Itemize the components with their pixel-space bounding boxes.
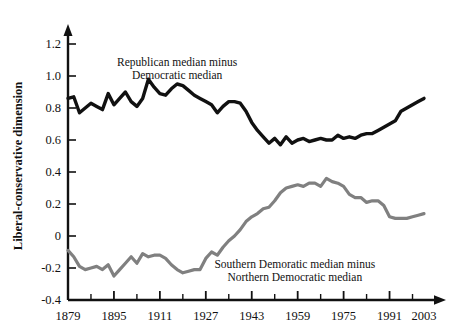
annotation-line-2: Democratic median bbox=[132, 69, 223, 81]
y-tick-label: -0.2 bbox=[41, 261, 61, 275]
y-axis-arrowhead bbox=[64, 24, 73, 36]
x-tick-label: 1943 bbox=[239, 309, 264, 323]
x-tick-label: 1911 bbox=[148, 309, 173, 323]
y-axis-title: Liberal-conservative dimension bbox=[11, 82, 25, 250]
annotation-line-2: Northern Democratic median bbox=[227, 271, 362, 283]
x-tick-label: 1975 bbox=[331, 309, 356, 323]
southern-minus-northern-label: Southern Demoratic median minusNorthern … bbox=[214, 258, 375, 283]
x-axis-ticks bbox=[68, 291, 413, 300]
x-tick-label: 2003 bbox=[412, 309, 437, 323]
annotation-line-1: Southern Demoratic median minus bbox=[214, 258, 375, 270]
y-tick-label: 0.8 bbox=[45, 101, 61, 115]
liberal-conservative-dimension-chart: -0.4-0.200.20.40.60.81.01.2 187918951911… bbox=[0, 0, 452, 332]
x-tick-label: 1879 bbox=[56, 309, 81, 323]
y-axis-tick-labels: -0.4-0.200.20.40.60.81.01.2 bbox=[41, 37, 62, 307]
y-tick-label: 0.6 bbox=[45, 133, 61, 147]
y-tick-label: -0.4 bbox=[41, 293, 62, 307]
x-axis-arrowhead bbox=[434, 295, 446, 305]
y-tick-label: 1.2 bbox=[45, 37, 61, 51]
y-tick-label: 0 bbox=[55, 229, 61, 243]
annotation-line-1: Republican median minus bbox=[117, 56, 238, 69]
data-series-group bbox=[68, 79, 424, 276]
x-tick-label: 1959 bbox=[285, 309, 310, 323]
x-tick-label: 1991 bbox=[377, 309, 402, 323]
y-tick-label: 1.0 bbox=[45, 69, 61, 83]
x-axis-tick-labels: 187918951911192719431959197519912003 bbox=[56, 309, 437, 323]
republican-minus-democratic-label: Republican median minusDemocratic median bbox=[117, 56, 238, 81]
y-tick-label: 0.2 bbox=[45, 197, 61, 211]
x-tick-label: 1927 bbox=[193, 309, 218, 323]
y-tick-label: 0.4 bbox=[45, 165, 61, 179]
series-line-republican-minus-democratic bbox=[68, 79, 424, 145]
chart-container: -0.4-0.200.20.40.60.81.01.2 187918951911… bbox=[0, 0, 452, 332]
x-tick-label: 1895 bbox=[101, 309, 126, 323]
